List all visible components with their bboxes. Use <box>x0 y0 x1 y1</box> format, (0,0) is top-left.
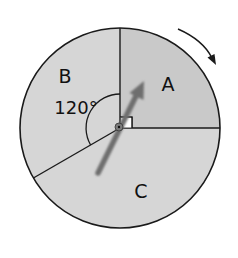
sector-a-label: A <box>162 73 175 95</box>
sector-b-label: B <box>58 65 71 87</box>
spinner-diagram: A B 120° C <box>0 0 238 258</box>
angle-label-120: 120° <box>54 97 97 118</box>
pivot-dot <box>118 126 120 128</box>
sector-c-label: C <box>134 180 147 202</box>
